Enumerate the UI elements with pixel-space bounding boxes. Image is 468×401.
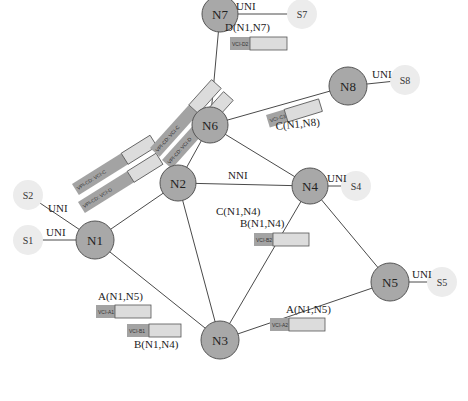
node-n8: N8 xyxy=(329,67,367,105)
station-s2: S2 xyxy=(13,180,43,210)
vc-box: VCI-B2 xyxy=(254,233,309,246)
node-label: N6 xyxy=(202,118,218,133)
vc-box-label: VCI-A1 xyxy=(98,309,114,315)
vc-box-label: VCI-B1 xyxy=(129,328,145,334)
link-n2-n4 xyxy=(178,183,310,186)
station-label: S1 xyxy=(23,235,34,246)
station-label: S7 xyxy=(297,9,308,20)
node-label: N1 xyxy=(87,233,103,248)
vc-box-slot xyxy=(250,37,287,50)
node-label: N7 xyxy=(212,7,228,22)
node-n4: N4 xyxy=(292,168,328,204)
interface-label-uni: UNI xyxy=(46,226,66,238)
node-n2: N2 xyxy=(160,165,196,201)
vc-box-slot xyxy=(149,324,181,337)
station-label: S4 xyxy=(351,181,362,192)
vc-box-label: VCI-D2 xyxy=(232,41,249,47)
node-n3: N3 xyxy=(201,321,239,359)
interface-label-uni: UNI xyxy=(372,68,392,80)
vc-box: VCI-A1 xyxy=(96,305,151,318)
node-label: N4 xyxy=(302,179,318,194)
node-label: N5 xyxy=(382,275,398,290)
interface-label-uni: UNI xyxy=(412,268,432,280)
interface-label-uni: UNI xyxy=(48,202,68,214)
node-label: N3 xyxy=(212,333,228,348)
station-s7: S7 xyxy=(287,0,317,29)
node-n6: N6 xyxy=(192,107,228,143)
node-n5: N5 xyxy=(371,263,409,301)
interface-label-uni: UNI xyxy=(236,0,256,12)
vc-box: VCI-A2 xyxy=(270,318,325,331)
link-n2-n3 xyxy=(178,183,220,340)
connection-label: B(N1,N4) xyxy=(134,338,179,351)
connection-label: B(N1,N4) xyxy=(240,217,285,230)
connection-label: A(N1,N5) xyxy=(286,303,331,316)
station-s1: S1 xyxy=(13,225,43,255)
node-label: N8 xyxy=(340,79,356,94)
network-diagram: VCI-D2VCI-C3VCI-B2VCI-A1VCI-B1VCI-A2VPI-… xyxy=(0,0,468,401)
node-n1: N1 xyxy=(76,221,114,259)
interface-label-uni: UNI xyxy=(327,172,347,184)
vc-box-label: VCI-A2 xyxy=(272,322,288,328)
connection-label: A(N1,N5) xyxy=(98,290,143,303)
vc-box-slot xyxy=(115,305,151,318)
station-label: S2 xyxy=(23,190,34,201)
vc-box-label: VCI-B2 xyxy=(256,237,272,243)
vc-box: VCI-B1 xyxy=(127,324,181,337)
vc-box: VCI-D2 xyxy=(230,37,287,50)
station-s8: S8 xyxy=(390,65,420,95)
vc-box-slot xyxy=(289,318,325,331)
vc-box-slot xyxy=(273,233,309,246)
node-label: N2 xyxy=(170,176,186,191)
connection-label: D(N1,N7) xyxy=(225,21,270,34)
station-label: S5 xyxy=(437,277,448,288)
station-label: S8 xyxy=(400,75,411,86)
interface-label-nni: NNI xyxy=(228,169,248,181)
